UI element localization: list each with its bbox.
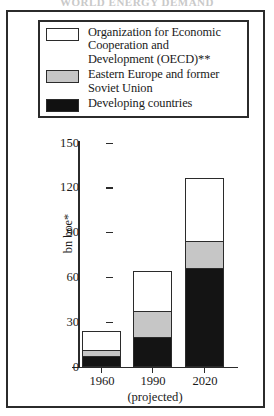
bar-1990[interactable] <box>133 271 172 367</box>
y-tick-label: 150 <box>49 137 79 150</box>
bar-2020[interactable] <box>185 178 224 368</box>
x-tick-mark <box>101 367 102 373</box>
y-tick-mark <box>106 232 113 233</box>
x-tick-label-1990: 1990 <box>126 375 180 388</box>
y-axis-label: bn boe* <box>61 194 76 274</box>
bar-segment-oecd <box>186 179 223 242</box>
bar-segment-eastern-europe <box>186 241 223 269</box>
x-tick-label-2020: 2020 <box>178 375 232 388</box>
y-tick-label: 0 <box>49 361 79 374</box>
bar-segment-eastern-europe <box>83 350 120 358</box>
y-tick-mark <box>106 143 113 144</box>
bar-segment-oecd <box>83 332 120 350</box>
projected-note: (projected) <box>72 391 238 404</box>
x-tick-label-1960: 1960 <box>75 375 129 388</box>
x-tick-mark <box>152 367 153 373</box>
bar-segment-oecd <box>134 272 171 311</box>
x-tick-mark <box>204 367 205 373</box>
bar-segment-developing <box>134 338 171 366</box>
y-tick-label: 120 <box>49 181 79 194</box>
figure: WORLD ENERGY DEMAND Organization for Eco… <box>0 0 274 416</box>
y-axis-line <box>78 141 80 368</box>
y-tick-label: 30 <box>49 316 79 329</box>
y-tick-mark <box>106 322 113 323</box>
bar-segment-developing <box>186 269 223 366</box>
y-tick-mark <box>106 187 113 188</box>
y-tick-mark <box>106 277 113 278</box>
bar-1960[interactable] <box>82 331 121 367</box>
bar-segment-developing <box>83 357 120 366</box>
plot-area: 0 30 60 90 120 150 bn boe* <box>0 0 274 416</box>
bar-segment-eastern-europe <box>134 311 171 338</box>
